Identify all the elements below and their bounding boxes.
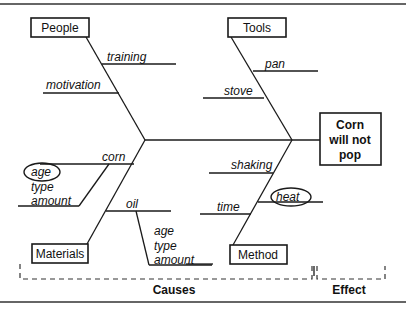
effect-line-1: Corn — [336, 118, 364, 132]
method-label: Method — [238, 248, 278, 262]
corn-sub-type: type — [31, 180, 54, 194]
oil-sub-age: age — [154, 224, 174, 238]
oil-sub-type: type — [154, 239, 177, 253]
cause-corn: corn — [102, 150, 126, 164]
cause-training: training — [107, 50, 147, 64]
materials-label: Materials — [36, 247, 85, 261]
effect-line-3: pop — [339, 148, 361, 162]
cause-time: time — [217, 200, 240, 214]
cause-oil: oil — [126, 197, 138, 211]
corn-sub-diagonal — [79, 164, 109, 206]
cause-motivation: motivation — [46, 78, 101, 92]
effect-label: Effect — [332, 283, 365, 297]
tools-label: Tools — [243, 21, 271, 35]
people-label: People — [41, 21, 79, 35]
causes-label: Causes — [153, 283, 196, 297]
oil-sub-diagonal — [136, 211, 149, 265]
cause-stove: stove — [224, 84, 253, 98]
effect-line-2: will not — [328, 133, 370, 147]
corn-sub-age: age — [31, 165, 51, 179]
cause-pan: pan — [264, 57, 285, 71]
cause-shaking: shaking — [231, 158, 273, 172]
effect-brace — [317, 266, 385, 279]
cause-heat: heat — [276, 190, 300, 204]
oil-sub-amount: amount — [154, 253, 195, 267]
corn-sub-amount: amount — [31, 194, 72, 208]
fishbone-diagram: People Tools Materials Method Corn will … — [0, 0, 406, 312]
